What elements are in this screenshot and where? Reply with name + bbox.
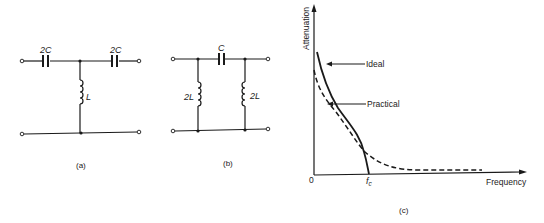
x-axis-arrow-icon [519, 170, 527, 175]
origin-label: 0 [309, 175, 314, 185]
terminal [171, 57, 175, 61]
caption-a: (a) [76, 161, 86, 170]
capacitor-2c-left [43, 55, 48, 67]
label-l: L [86, 92, 91, 102]
capacitor-2c-right [112, 55, 117, 67]
terminal [20, 59, 24, 63]
x-axis [314, 172, 522, 175]
terminal [137, 59, 141, 63]
caption-b: (b) [223, 159, 233, 168]
practical-curve [314, 70, 482, 170]
inductor-2l-right [242, 82, 245, 106]
y-axis-arrow-icon [312, 4, 317, 12]
terminal [20, 132, 24, 136]
panel-c-response-chart: Attenuation Frequency 0 fc Ideal Practic… [301, 4, 527, 215]
label-c: C [218, 43, 225, 53]
terminal [171, 129, 175, 133]
terminal [137, 130, 141, 134]
panel-b-pi-section: C 2L 2L (b) [171, 43, 270, 168]
terminal [266, 57, 270, 61]
label-2c-right: 2C [109, 45, 122, 55]
y-axis-label: Attenuation [301, 7, 311, 50]
cutoff-label: fc [366, 176, 373, 187]
inductor-l [80, 80, 83, 104]
ideal-curve [317, 52, 369, 174]
label-2l-left: 2L [183, 92, 194, 102]
filter-figure: 2C 2C L (a) C 2L [0, 0, 544, 223]
legend-ideal: Ideal [366, 59, 385, 69]
terminal [266, 127, 270, 131]
label-2c-left: 2C [39, 45, 52, 55]
x-axis-label: Frequency [486, 177, 527, 187]
inductor-2l-left [198, 82, 201, 106]
legend-practical: Practical [367, 99, 400, 109]
caption-c: (c) [399, 206, 409, 215]
ideal-pointer-arrow-icon [326, 62, 332, 67]
capacitor-c [219, 53, 224, 65]
panel-a-t-section: 2C 2C L (a) [20, 45, 141, 170]
label-2l-right: 2L [249, 91, 260, 101]
